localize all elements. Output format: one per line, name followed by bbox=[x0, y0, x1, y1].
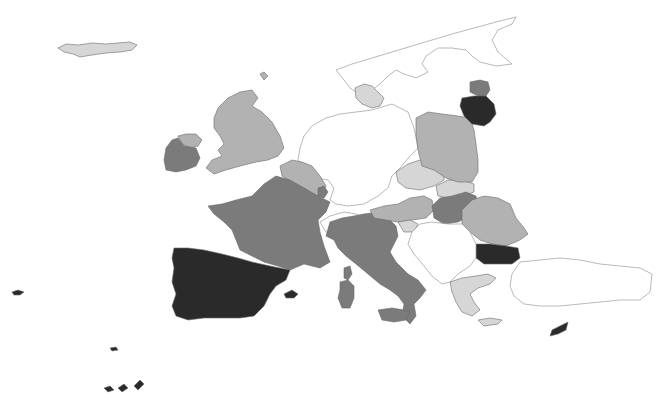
region-faroe-islands bbox=[260, 72, 268, 80]
europe-map-canvas bbox=[0, 0, 666, 405]
region-madeira bbox=[110, 347, 118, 351]
region-balkans-croatia-serbia bbox=[408, 222, 476, 284]
region-estonia bbox=[470, 80, 490, 96]
region-denmark bbox=[355, 84, 384, 108]
region-uk bbox=[206, 90, 284, 174]
region-canary-islands bbox=[104, 386, 114, 392]
region-iceland bbox=[58, 42, 137, 57]
region-sicily bbox=[378, 308, 410, 322]
region-turkey bbox=[510, 258, 652, 306]
region-corsica bbox=[344, 266, 352, 280]
region-crete bbox=[478, 318, 502, 326]
choropleth-map bbox=[0, 0, 666, 405]
region-luxembourg bbox=[318, 186, 328, 198]
region-bulgaria bbox=[476, 244, 520, 264]
region-azores bbox=[12, 290, 24, 295]
region-canary-islands-2 bbox=[118, 384, 128, 392]
region-austria bbox=[370, 196, 434, 222]
region-sardinia bbox=[338, 280, 354, 308]
region-cyprus bbox=[550, 322, 568, 336]
region-balearic-islands bbox=[284, 290, 298, 298]
region-greece bbox=[450, 274, 496, 316]
region-canary-islands-3 bbox=[134, 380, 144, 390]
